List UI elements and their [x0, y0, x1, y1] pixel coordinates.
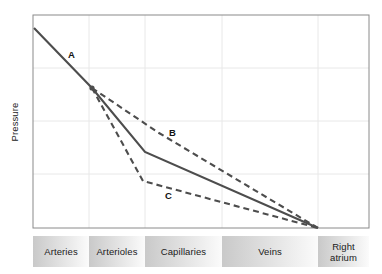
band-label-capillaries: Capillaries — [161, 246, 206, 257]
band-segment-right-atrium: Right atrium — [318, 236, 369, 267]
branch-point-marker — [89, 85, 94, 90]
vessel-segment-band: Arteries Arterioles Capillaries Veins Ri… — [33, 236, 369, 267]
band-label-veins: Veins — [258, 246, 282, 257]
band-label-right-atrium: Right atrium — [318, 241, 369, 263]
curve-label-a: A — [68, 49, 75, 60]
y-axis-title: Pressure — [9, 103, 20, 142]
band-label-arterioles: Arterioles — [96, 246, 137, 257]
pressure-profile-chart — [0, 0, 382, 274]
band-segment-veins: Veins — [222, 236, 318, 267]
curve-label-b: B — [169, 127, 176, 138]
band-segment-capillaries: Capillaries — [145, 236, 222, 267]
curve-label-c: C — [165, 190, 172, 201]
band-segment-arteries: Arteries — [33, 236, 89, 267]
band-label-arteries: Arteries — [44, 246, 78, 257]
band-segment-arterioles: Arterioles — [89, 236, 145, 267]
